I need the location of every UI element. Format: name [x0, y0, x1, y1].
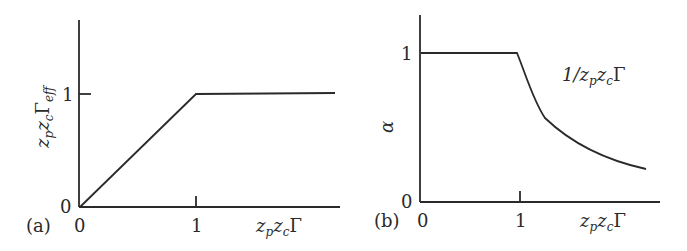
- panel-a-x-axis-label: zpzcΓ: [255, 215, 302, 239]
- panel-a-y-tick-label-1: 1: [62, 84, 73, 105]
- panel-b-label: (b): [374, 210, 400, 231]
- panel-a: 0 1 0 1 (a) zpzcΓ zpzcΓeff: [26, 20, 340, 239]
- panel-a-x-tick-label-1: 1: [191, 215, 202, 236]
- panel-b-x-axis-label: zpzcΓ: [579, 210, 626, 234]
- panel-b-x-tick-label-0: 0: [417, 210, 428, 231]
- panel-b: 0 1 0 1 (b) α zpzcΓ 1/zpzcΓ: [374, 15, 660, 234]
- panel-a-curve: [80, 93, 335, 207]
- panel-a-x-tick-label-0: 0: [74, 215, 85, 236]
- figure: 0 1 0 1 (a) zpzcΓ zpzcΓeff 0 1 0 1 (b) α…: [0, 0, 687, 251]
- panel-b-x-tick-label-1: 1: [515, 210, 526, 231]
- panel-a-y-tick-label-0: 0: [60, 196, 71, 217]
- panel-b-y-tick-label-0: 0: [401, 191, 412, 212]
- panel-b-y-axis-label: α: [376, 121, 397, 133]
- panel-a-label: (a): [26, 215, 51, 236]
- panel-a-y-axis-label: zpzcΓeff: [32, 84, 56, 149]
- panel-b-curve-annotation: 1/zpzcΓ: [562, 64, 625, 88]
- panel-b-y-tick-label-1: 1: [401, 43, 412, 64]
